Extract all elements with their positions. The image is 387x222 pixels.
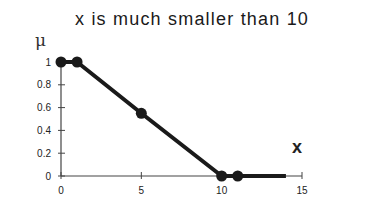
y-tick-label: 0.6 [37, 102, 51, 113]
x-tick-label: 10 [216, 185, 228, 196]
y-tick-label: 0.2 [37, 148, 51, 159]
x-tick-label: 0 [58, 185, 64, 196]
x-tick-label: 5 [139, 185, 145, 196]
x-tick-label: 15 [296, 185, 308, 196]
data-point-marker [72, 57, 83, 68]
membership-line [61, 62, 286, 176]
data-series [56, 57, 286, 182]
data-point-marker [216, 171, 227, 182]
y-tick-label: 0.8 [37, 79, 51, 90]
data-point-marker [232, 171, 243, 182]
y-tick-label: 1 [45, 57, 51, 68]
axes [58, 62, 302, 179]
y-tick-label: 0 [45, 171, 51, 182]
y-tick-label: 0.4 [37, 125, 51, 136]
data-point-marker [136, 108, 147, 119]
data-point-marker [56, 57, 67, 68]
plot-area: 05101500.20.40.60.81 [0, 0, 387, 222]
